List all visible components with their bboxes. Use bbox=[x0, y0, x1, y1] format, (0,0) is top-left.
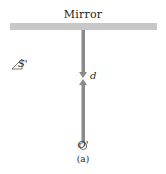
source-label: S' bbox=[18, 58, 28, 69]
origin-label: O' bbox=[0, 139, 166, 150]
arrow-down-icon bbox=[79, 72, 87, 78]
mirror-label: Mirror bbox=[0, 8, 166, 21]
arrow-up-icon bbox=[79, 79, 87, 85]
mirror-bar bbox=[10, 23, 157, 30]
rod-lower bbox=[82, 85, 86, 142]
separation-label: d bbox=[90, 70, 96, 81]
figure-caption: (a) bbox=[0, 154, 166, 164]
rod-upper bbox=[82, 30, 86, 72]
